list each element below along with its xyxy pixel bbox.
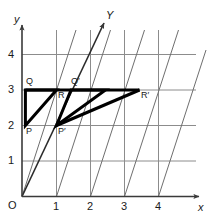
label-r-prime: R′ [141, 91, 149, 100]
diagram-canvas [0, 0, 210, 224]
cartesian-axes [22, 25, 199, 197]
origin-label: O [8, 200, 17, 211]
label-q: Q [26, 77, 33, 86]
oblique-y-axis-label: Y [106, 10, 113, 21]
label-p-prime: P′ [58, 127, 66, 136]
x-tick-4: 4 [155, 201, 161, 212]
label-r: R [58, 91, 65, 100]
label-p: P [26, 127, 32, 136]
y-tick-3: 3 [8, 84, 14, 95]
y-tick-2: 2 [8, 120, 14, 131]
triangle-pqr [25, 90, 56, 126]
x-axis-label: x [198, 202, 204, 213]
x-tick-3: 3 [121, 201, 127, 212]
x-tick-2: 2 [87, 201, 93, 212]
y-tick-4: 4 [8, 49, 14, 60]
oblique-gridline-4 [159, 50, 207, 197]
y-axis-label: y [14, 14, 20, 25]
triangle-pqr-outline [25, 90, 56, 126]
geometry-figure: y Y x O 4 3 2 1 1 2 3 4 Q P R Q′ P′ R′ [0, 0, 210, 224]
label-q-prime: Q′ [71, 77, 80, 86]
x-tick-1: 1 [53, 201, 59, 212]
horizontal-gridlines [22, 55, 196, 162]
y-tick-1: 1 [8, 155, 14, 166]
